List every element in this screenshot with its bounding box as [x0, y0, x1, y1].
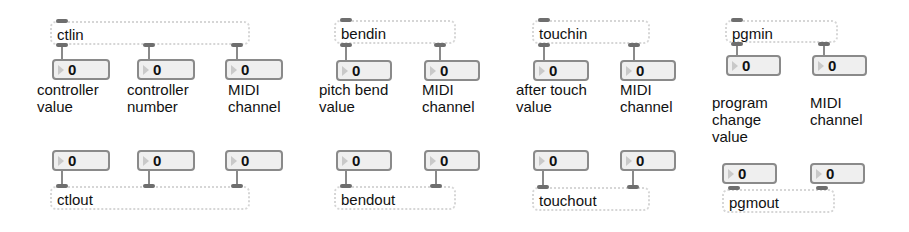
triangle-icon	[58, 65, 64, 75]
triangle-icon	[143, 156, 149, 166]
pgmout-inlet-1[interactable]	[728, 186, 740, 190]
patch-cord[interactable]	[542, 171, 544, 186]
patch-cord[interactable]	[435, 171, 437, 185]
patch-cord[interactable]	[543, 47, 545, 60]
touchout-object[interactable]: touchout	[532, 187, 650, 211]
ctlin-object[interactable]: ctlin	[50, 21, 250, 45]
object-name: ctlout	[57, 191, 93, 208]
number-box-midi-channel[interactable]: 0	[620, 60, 676, 81]
number-box-after-touch-value[interactable]: 0	[533, 60, 589, 81]
number-box-touchout-channel[interactable]: 0	[620, 150, 676, 171]
bendout-inlet-2[interactable]	[430, 184, 442, 188]
number-box-pgmout-value[interactable]: 0	[722, 163, 777, 184]
patch-cord[interactable]	[236, 47, 238, 59]
object-name: ctlin	[57, 26, 84, 43]
comment-label: MIDI channel	[620, 81, 673, 115]
patch-cord[interactable]	[148, 171, 150, 185]
object-name: pgmin	[732, 25, 773, 42]
pgmout-object[interactable]: pgmout	[722, 189, 835, 213]
triangle-icon	[816, 169, 822, 179]
comment-label: MIDI channel	[422, 81, 475, 115]
ctlout-inlet-2[interactable]	[143, 184, 155, 188]
comment-label: pitch bend value	[319, 81, 388, 115]
comment-label: after touch value	[516, 81, 587, 115]
number-box-controller-number[interactable]: 0	[137, 59, 195, 80]
patch-cord[interactable]	[61, 171, 63, 185]
triangle-icon	[342, 156, 348, 166]
pgmin-inlet[interactable]	[731, 18, 743, 22]
number-box-midi-channel[interactable]: 0	[225, 59, 283, 80]
pgmout-inlet-2[interactable]	[816, 186, 828, 190]
patch-cord[interactable]	[736, 46, 738, 55]
bendout-object[interactable]: bendout	[334, 186, 456, 210]
triangle-icon	[626, 66, 632, 76]
ctlout-inlet-1[interactable]	[56, 184, 68, 188]
number-box-program-change-value[interactable]: 0	[726, 55, 781, 76]
comment-label: controller value	[37, 81, 99, 115]
touchout-inlet-2[interactable]	[627, 185, 639, 189]
comment-label: MIDI channel	[810, 94, 863, 128]
number-box-pgmout-channel[interactable]: 0	[810, 163, 865, 184]
patch-cord[interactable]	[236, 171, 238, 185]
triangle-icon	[342, 66, 348, 76]
patch-cord[interactable]	[633, 47, 635, 60]
object-name: touchout	[539, 192, 597, 209]
bendin-inlet[interactable]	[340, 18, 352, 22]
number-box-ctlout-channel[interactable]: 0	[225, 150, 283, 171]
triangle-icon	[430, 156, 436, 166]
ctlout-object[interactable]: ctlout	[50, 186, 250, 210]
number-box-midi-channel[interactable]: 0	[424, 60, 480, 81]
triangle-icon	[58, 156, 64, 166]
triangle-icon	[626, 156, 632, 166]
triangle-icon	[231, 156, 237, 166]
patch-cord[interactable]	[345, 47, 347, 60]
number-box-touchout-value[interactable]: 0	[533, 150, 589, 171]
touchout-inlet-1[interactable]	[537, 185, 549, 189]
object-name: touchin	[539, 25, 587, 42]
patch-cord[interactable]	[148, 47, 150, 59]
triangle-icon	[231, 65, 237, 75]
comment-label: controller number	[127, 81, 189, 115]
comment-label: MIDI channel	[228, 81, 281, 115]
patch-cord[interactable]	[345, 171, 347, 185]
ctlout-inlet-3[interactable]	[231, 184, 243, 188]
bendin-object[interactable]: bendin	[334, 20, 456, 44]
triangle-icon	[539, 156, 545, 166]
ctlin-inlet[interactable]	[56, 19, 68, 23]
bendout-inlet-1[interactable]	[340, 184, 352, 188]
object-name: pgmout	[729, 194, 779, 211]
touchin-object[interactable]: touchin	[532, 20, 650, 44]
number-box-ctlout-number[interactable]: 0	[137, 150, 195, 171]
triangle-icon	[818, 61, 824, 71]
triangle-icon	[539, 66, 545, 76]
object-name: bendout	[341, 191, 395, 208]
triangle-icon	[430, 66, 436, 76]
patch-cord[interactable]	[61, 47, 63, 59]
patch-cord[interactable]	[632, 171, 634, 186]
number-box-ctlout-value[interactable]: 0	[52, 150, 110, 171]
comment-label: program change value	[712, 94, 768, 145]
number-box-controller-value[interactable]: 0	[52, 59, 110, 80]
triangle-icon	[728, 169, 734, 179]
object-name: bendin	[341, 25, 386, 42]
number-box-bendout-value[interactable]: 0	[336, 150, 392, 171]
triangle-icon	[732, 61, 738, 71]
patch-cord[interactable]	[439, 47, 441, 60]
triangle-icon	[143, 65, 149, 75]
number-box-bendout-channel[interactable]: 0	[424, 150, 480, 171]
patch-cord[interactable]	[823, 46, 825, 55]
number-box-midi-channel[interactable]: 0	[812, 55, 867, 76]
touchin-inlet[interactable]	[538, 18, 550, 22]
pgmin-object[interactable]: pgmin	[725, 20, 838, 43]
number-box-pitch-bend-value[interactable]: 0	[336, 60, 392, 81]
